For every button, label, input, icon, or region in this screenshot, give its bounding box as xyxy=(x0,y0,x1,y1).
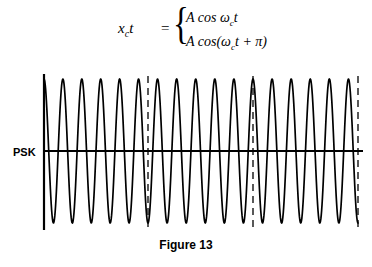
equation-case-2-tail: t + π) xyxy=(235,34,267,49)
equation-lhs: xct xyxy=(118,20,133,39)
equation-block: xct = { A cos ωct A cos(ωct + π) xyxy=(118,6,288,58)
equation-case-1-tail: t xyxy=(234,10,238,25)
equation-lhs-x: x xyxy=(118,20,125,36)
equation-case-2: A cos(ωct + π) xyxy=(186,30,267,54)
equation-equals-sign: = xyxy=(161,20,169,37)
equation-lhs-t: t xyxy=(129,20,133,36)
waveform-plot xyxy=(0,62,372,237)
waveform-svg xyxy=(0,62,372,237)
figure-caption: Figure 13 xyxy=(0,238,372,252)
equation-case-1-main: A cos ω xyxy=(186,10,230,25)
equation-case-1: A cos ωct xyxy=(186,6,267,30)
equation-case-2-main: A cos(ω xyxy=(186,34,231,49)
figure-container: xct = { A cos ωct A cos(ωct + π) PSK Fig… xyxy=(0,0,372,267)
equation-cases: A cos ωct A cos(ωct + π) xyxy=(186,6,267,54)
